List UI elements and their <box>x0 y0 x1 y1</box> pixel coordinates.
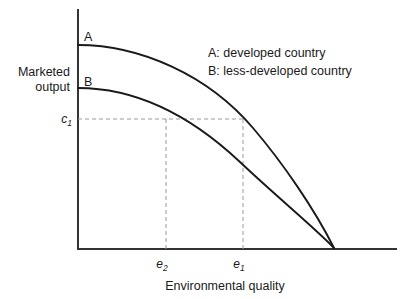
curve-b-less-developed-country <box>78 88 334 248</box>
legend-entry-b: B: less-developed country <box>208 64 353 78</box>
x-axis-label: Environmental quality <box>165 279 285 293</box>
tick-label-e1-subscript: 1 <box>240 263 245 273</box>
tick-label-c1-subscript: 1 <box>67 118 72 128</box>
tick-label-c1: c1 <box>61 112 72 128</box>
y-axis-label-line2: output <box>35 80 70 94</box>
tick-label-e1: e1 <box>233 257 245 273</box>
production-possibility-frontier-chart: A B Marketed output Environmental qualit… <box>0 0 415 299</box>
tick-label-e2: e2 <box>156 257 168 273</box>
legend-entry-a: A: developed country <box>208 46 326 60</box>
curve-label-a: A <box>84 30 93 44</box>
y-axis-label-line1: Marketed <box>18 65 70 79</box>
curve-label-b: B <box>84 75 92 89</box>
figure-container: A B Marketed output Environmental qualit… <box>0 0 415 299</box>
tick-label-e2-subscript: 2 <box>162 263 168 273</box>
